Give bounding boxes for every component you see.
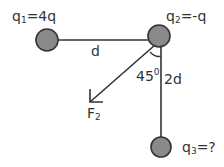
charge-q3	[151, 137, 171, 157]
label-q3: q3=?	[182, 139, 216, 156]
angle-label: 450	[136, 67, 160, 84]
charge-q2	[148, 25, 170, 47]
label-q2: q2=-q	[166, 8, 206, 25]
charge-q1	[36, 29, 58, 51]
force-label-f2: F2	[87, 105, 101, 122]
coulomb-force-diagram: q1=4q q2=-q q3=? d 2d 450 F2	[0, 0, 224, 167]
angle-arc	[150, 52, 161, 57]
distance-label-d: d	[91, 43, 100, 59]
distance-label-2d: 2d	[164, 71, 182, 87]
label-q1: q1=4q	[12, 8, 56, 25]
